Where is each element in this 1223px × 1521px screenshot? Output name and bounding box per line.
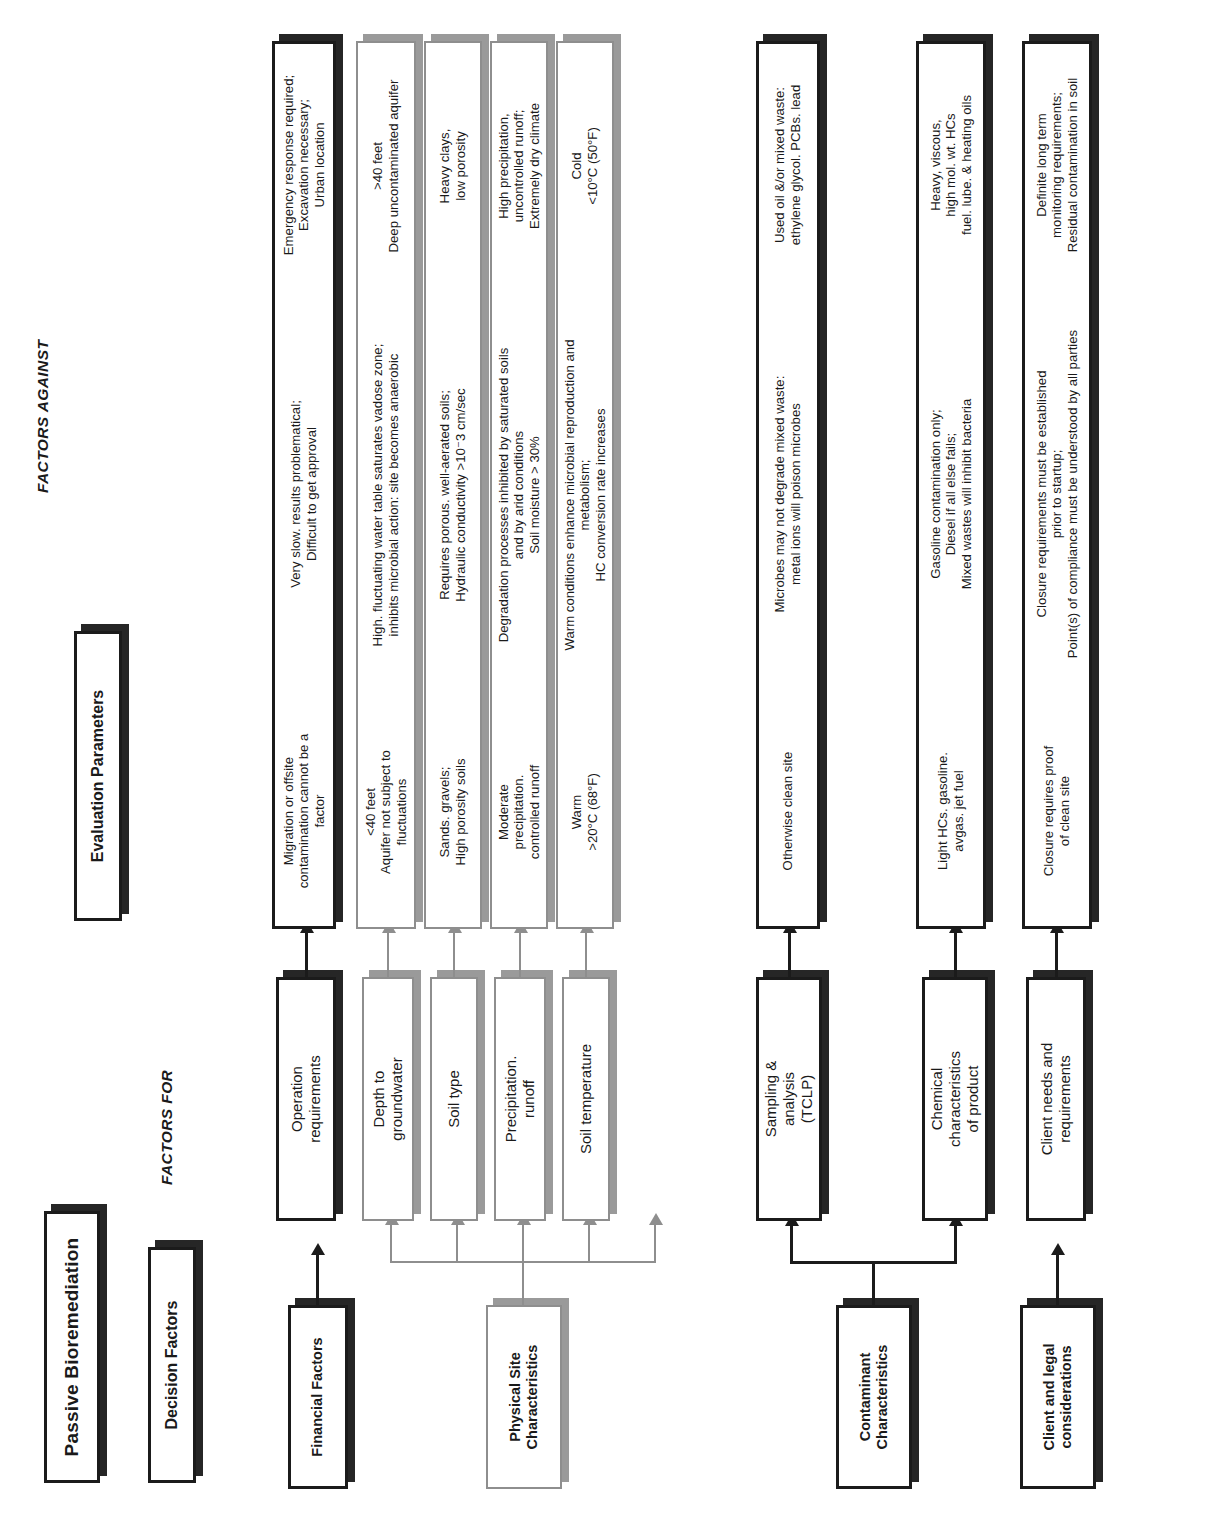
factor-for-precipitation-runoff: Moderate precipitation. controlled runof… <box>492 703 546 921</box>
arrowhead-financial <box>311 1243 325 1255</box>
connector-row0 <box>305 931 308 977</box>
diagram-stage: Passive Bioremediation Decision Factors … <box>0 0 1223 1521</box>
factor-for-sampling-analysis: Otherwise clean site <box>759 702 817 920</box>
connector-physical-trunk-h <box>522 1261 524 1305</box>
header-factors-for: FACTORS FOR <box>158 1070 176 1185</box>
connector-row6 <box>954 931 957 977</box>
panel-row-soil-temperature: Warm >20°C (68°F) Warm conditions enhanc… <box>556 41 614 929</box>
panel-row-operation-requirements: Migration or offsite contamination canno… <box>272 41 336 929</box>
header-decision-factors: Decision Factors <box>148 1247 196 1483</box>
decision-factor-soil-type[interactable]: Soil type <box>430 977 478 1221</box>
page-canvas: Passive Bioremediation Decision Factors … <box>0 0 1223 1521</box>
connector-physical-b5 <box>654 1223 656 1263</box>
connector-financial <box>316 1253 319 1305</box>
decision-factor-precipitation-runoff[interactable]: Precipitation. runoff <box>494 977 546 1221</box>
factor-against-sampling-analysis: Used oil &/or mixed waste: ethylene glyc… <box>759 44 817 286</box>
arrowhead-physical-extra <box>649 1213 663 1225</box>
factor-against-operation-requirements: Emergency response required; Excavation … <box>275 44 333 286</box>
factor-for-depth-to-groundwater: <40 feet Aquifer not subject to fluctuat… <box>358 703 414 921</box>
factor-for-chemical-characteristics: Light HCs. gasoline. avgas. jet fuel <box>919 702 983 920</box>
evaluation-parameter-client-needs: Closure requirements must be established… <box>1025 298 1089 690</box>
decision-factor-sampling-analysis[interactable]: Sampling & analysis (TCLP) <box>756 977 822 1221</box>
category-box-client-legal[interactable]: Client and legal considerations <box>1020 1305 1096 1489</box>
header-factors-against: FACTORS AGAINST <box>34 340 52 493</box>
connector-row4 <box>585 931 587 977</box>
factor-for-soil-temperature: Warm >20°C (68°F) <box>558 703 612 921</box>
header-evaluation-parameters: Evaluation Parameters <box>74 631 122 921</box>
decision-factor-client-needs[interactable]: Client needs and requirements <box>1026 977 1086 1221</box>
evaluation-parameter-operation-requirements: Very slow. results problematical; Diffic… <box>275 298 333 690</box>
factor-against-client-needs: Definite long term monitoring requiremen… <box>1025 44 1089 286</box>
connector-client <box>1056 1253 1059 1305</box>
connector-row7 <box>1055 931 1058 977</box>
category-box-contaminant[interactable]: Contaminant Characteristics <box>836 1305 912 1489</box>
connector-row1 <box>387 931 389 977</box>
panel-row-client-needs: Closure requires proof of clean site Clo… <box>1022 41 1092 929</box>
connector-physical-b3 <box>522 1223 524 1263</box>
factor-against-depth-to-groundwater: >40 feet Deep uncontaminated aquifer <box>358 45 414 287</box>
connector-contaminant-trunk-v <box>790 1261 956 1264</box>
panel-row-precipitation-runoff: Moderate precipitation. controlled runof… <box>490 41 548 929</box>
panel-row-chemical-characteristics: Light HCs. gasoline. avgas. jet fuel Gas… <box>916 41 986 929</box>
panel-row-soil-type: Sands. gravels; High porosity soils Requ… <box>424 41 482 929</box>
panel-row-sampling-analysis: Otherwise clean site Microbes may not de… <box>756 41 820 929</box>
evaluation-parameter-soil-temperature: Warm conditions enhance microbial reprod… <box>558 299 612 691</box>
connector-contaminant-b1 <box>790 1224 793 1264</box>
connector-physical-b4 <box>588 1223 590 1263</box>
category-box-physical-site[interactable]: Physical Site Characteristics <box>486 1305 562 1489</box>
factor-against-chemical-characteristics: Heavy, viscous, high mol. wt. HCs fuel. … <box>919 44 983 286</box>
connector-row2 <box>453 931 455 977</box>
connector-contaminant-trunk-h <box>872 1261 875 1305</box>
connector-physical-b2 <box>456 1223 458 1263</box>
decision-factor-operation-requirements[interactable]: Operation requirements <box>276 977 336 1221</box>
evaluation-parameter-precipitation-runoff: Degradation processes inhibited by satur… <box>492 299 546 691</box>
evaluation-parameter-chemical-characteristics: Gasoline contamination only; Diesel if a… <box>919 298 983 690</box>
evaluation-parameter-sampling-analysis: Microbes may not degrade mixed waste: me… <box>759 298 817 690</box>
evaluation-parameter-soil-type: Requires porous. well-aerated soils; Hyd… <box>426 299 480 691</box>
decision-factor-depth-to-groundwater[interactable]: Depth to groundwater <box>362 977 414 1221</box>
connector-physical-b1 <box>390 1223 392 1263</box>
panel-row-depth-to-groundwater: <40 feet Aquifer not subject to fluctuat… <box>356 41 416 929</box>
factor-against-precipitation-runoff: High precipitation, uncontrolled runoff;… <box>492 45 546 287</box>
factor-against-soil-type: Heavy clays, low porosity <box>426 45 480 287</box>
arrowhead-client-needs <box>1051 1243 1065 1255</box>
factor-for-client-needs: Closure requires proof of clean site <box>1025 702 1089 920</box>
decision-factor-soil-temperature[interactable]: Soil temperature <box>562 977 610 1221</box>
evaluation-parameter-depth-to-groundwater: High. fluctuating water table saturates … <box>358 299 414 691</box>
decision-factor-chemical-characteristics[interactable]: Chemical characteristics of product <box>922 977 988 1221</box>
chart-title: Passive Bioremediation <box>44 1211 100 1483</box>
connector-row3 <box>519 931 521 977</box>
factor-against-soil-temperature: Cold <10°C (50°F) <box>558 45 612 287</box>
connector-contaminant-b2 <box>954 1224 957 1264</box>
factor-for-soil-type: Sands. gravels; High porosity soils <box>426 703 480 921</box>
category-box-financial[interactable]: Financial Factors <box>288 1305 348 1489</box>
connector-row5 <box>788 931 791 977</box>
factor-for-operation-requirements: Migration or offsite contamination canno… <box>275 702 333 920</box>
